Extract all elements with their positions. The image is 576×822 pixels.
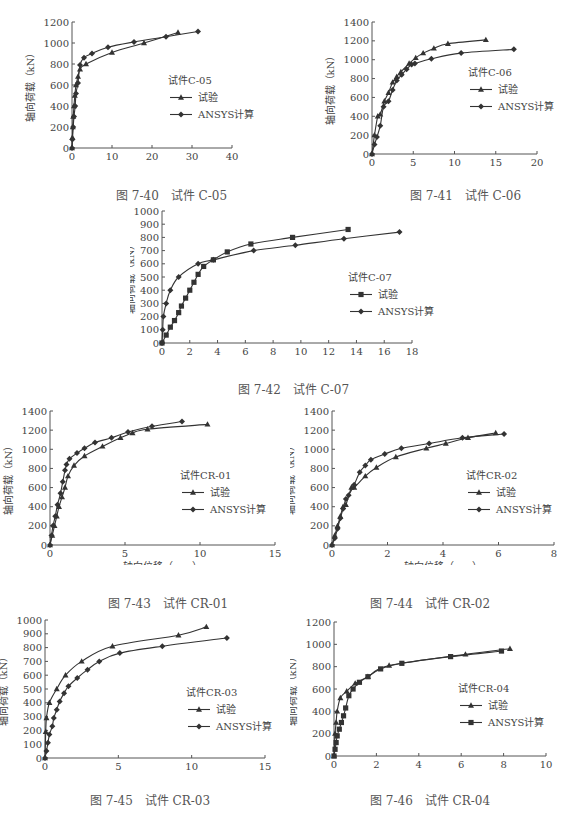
legend-title: 试件CR-02: [466, 469, 517, 481]
series-ansys: [159, 229, 403, 346]
legend-label: 试验: [198, 91, 218, 103]
y-tick-label: 200: [140, 311, 159, 322]
y-tick-label: 800: [140, 232, 159, 243]
legend-label: 试验: [498, 83, 518, 95]
x-tick-label: 6: [242, 346, 248, 355]
y-tick-label: 900: [23, 628, 42, 639]
diamond-marker: [96, 658, 102, 664]
figure-c06: 020040060080010001200140005101520轴向位移（mm…: [310, 10, 576, 168]
legend-diamond-marker: [358, 309, 364, 315]
diamond-marker: [131, 39, 137, 45]
diamond-marker: [62, 467, 68, 473]
x-tick-label: 8: [500, 759, 506, 770]
triangle-marker: [203, 624, 209, 629]
diamond-marker: [54, 707, 60, 713]
series-experiment: [329, 430, 499, 547]
legend-label: ANSYS计算: [497, 100, 554, 112]
x-tick-label: 0: [47, 548, 53, 559]
diamond-marker: [43, 748, 49, 754]
legend-label: ANSYS计算: [495, 503, 552, 515]
legend-label: 试验: [378, 288, 398, 300]
y-tick-label: 800: [28, 463, 47, 474]
square-marker: [334, 740, 339, 745]
y-tick-label: 1000: [344, 54, 369, 65]
legend-square-marker: [358, 292, 363, 297]
legend-label: ANSYS计算: [197, 108, 254, 120]
legend-diamond-marker: [476, 507, 482, 513]
caption-fig-7-41: 图 7-41 试件 C-06: [410, 186, 521, 203]
x-tick-label: 0: [159, 346, 165, 355]
series-experiment: [69, 29, 181, 150]
y-axis-label: 轴向荷载（kN）: [290, 652, 298, 727]
y-axis-label: 轴向荷载（kN）: [2, 441, 14, 516]
y-tick-label: 1200: [344, 35, 369, 46]
diamond-marker: [61, 690, 67, 696]
square-marker: [179, 303, 184, 308]
x-tick-label: 10: [106, 151, 119, 160]
y-tick-label: 1000: [17, 615, 42, 626]
figure-cr01: 0200400600800100012001400051015轴向位移（mm）轴…: [0, 403, 290, 565]
square-marker: [365, 674, 370, 679]
x-tick-label: 15: [489, 157, 502, 168]
square-marker: [499, 648, 504, 653]
x-tick-label: 8: [270, 346, 276, 355]
y-tick-label: 800: [23, 642, 42, 653]
square-marker: [164, 332, 169, 337]
y-tick-label: 900: [140, 219, 159, 230]
diamond-marker: [224, 635, 230, 641]
x-tick-label: 0: [329, 548, 335, 559]
y-tick-label: 1000: [134, 206, 159, 217]
diamond-marker: [398, 445, 404, 451]
x-tick-label: 20: [531, 157, 544, 168]
y-tick-label: 200: [350, 130, 369, 141]
series-ansys: [331, 648, 504, 758]
legend-title: 试件C-06: [468, 66, 512, 78]
legend: 试件C-07试验ANSYS计算: [348, 271, 434, 317]
series-ansys: [369, 46, 517, 157]
y-tick-label: 200: [310, 520, 329, 531]
y-tick-label: 600: [312, 684, 331, 695]
square-marker: [331, 753, 336, 758]
legend: 试件C-05试验ANSYS计算: [168, 74, 254, 120]
x-tick-label: 0: [369, 157, 375, 168]
diamond-marker: [397, 229, 403, 235]
diamond-marker: [159, 643, 165, 649]
y-tick-label: 600: [310, 482, 329, 493]
y-tick-label: 400: [312, 706, 331, 717]
figure-cr04: 0200400600800100012000246810轴向位移（mm）轴向荷载…: [290, 612, 576, 772]
diamond-marker: [49, 723, 55, 729]
x-tick-label: 10: [448, 157, 461, 168]
diamond-marker: [377, 123, 383, 129]
legend-square-marker: [468, 720, 473, 725]
diamond-marker: [426, 441, 432, 447]
caption-fig-7-40: 图 7-40 试件 C-05: [116, 186, 227, 203]
diamond-marker: [160, 314, 166, 320]
y-tick-label: 1200: [304, 425, 329, 436]
y-axis-label: 轴向荷载（kN）: [24, 48, 36, 123]
legend-title: 试件C-05: [168, 74, 212, 86]
x-tick-label: 6: [495, 548, 501, 559]
figure-cr02: 020040060080010001200140002468轴向位移（mm）轴向…: [290, 403, 576, 565]
y-tick-label: 600: [23, 670, 42, 681]
y-tick-label: 800: [350, 73, 369, 84]
x-axis-label: 轴向位移（mm）: [404, 560, 483, 565]
triangle-marker: [54, 686, 60, 691]
x-tick-label: 40: [226, 151, 239, 160]
square-marker: [350, 686, 355, 691]
legend: 试件CR-01试验ANSYS计算: [180, 469, 266, 515]
diamond-marker: [117, 650, 123, 656]
triangle-marker: [43, 715, 49, 720]
diamond-marker: [511, 46, 517, 52]
legend-label: 试验: [488, 699, 508, 711]
diamond-marker: [195, 261, 201, 267]
series-experiment: [369, 37, 489, 156]
series-experiment: [331, 646, 513, 759]
diamond-marker: [163, 300, 169, 306]
series-ansys: [47, 419, 185, 548]
diamond-marker: [51, 715, 57, 721]
x-tick-label: 5: [410, 157, 416, 168]
y-tick-label: 200: [23, 725, 42, 736]
x-tick-label: 0: [42, 761, 48, 772]
y-tick-label: 400: [310, 501, 329, 512]
square-marker: [201, 264, 206, 269]
